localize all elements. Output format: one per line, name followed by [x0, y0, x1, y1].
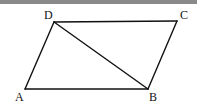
diagonal-db — [54, 22, 148, 89]
edge-cd — [54, 21, 177, 22]
vertex-label-a: A — [15, 90, 24, 104]
parallelogram-diagram: A B C D — [0, 0, 197, 111]
vertex-label-c: C — [180, 8, 188, 22]
edges — [25, 21, 177, 89]
vertex-label-d: D — [44, 8, 53, 22]
vertex-label-b: B — [149, 90, 157, 104]
edge-da — [25, 22, 54, 89]
edge-bc — [148, 21, 177, 89]
